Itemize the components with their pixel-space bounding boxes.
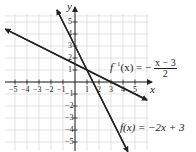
y-tick-label: 1 [68, 66, 72, 74]
y-tick-label: 2 [68, 54, 72, 62]
x-tick-label: −2 [45, 86, 54, 94]
finverse-equation-label: f−1(x) = − x − 3 2 [110, 58, 177, 79]
y-tick-label: 5 [68, 18, 72, 26]
x-tick-label: 4 [121, 86, 125, 94]
x-tick-label: −4 [21, 86, 30, 94]
x-tick-label: 2 [97, 86, 101, 94]
finv-denominator: 2 [154, 69, 177, 79]
finv-fraction: x − 3 2 [154, 58, 177, 79]
y-tick-label: −4 [65, 126, 74, 134]
finv-sup: −1 [113, 60, 120, 68]
x-tick-label: 3 [109, 86, 113, 94]
y-tick-label: −3 [65, 114, 74, 122]
y-axis-label: y [67, 1, 72, 12]
y-tick-label: −2 [65, 102, 74, 110]
x-tick-label: −3 [33, 86, 42, 94]
y-tick-label: 4 [68, 30, 72, 38]
y-tick-label: −5 [65, 138, 74, 146]
y-tick-label: 3 [68, 42, 72, 50]
x-tick-label: 5 [133, 86, 137, 94]
f-equation-label: f(x) = −2x + 3 [120, 122, 184, 133]
finv-arg: (x) = − [121, 61, 152, 73]
x-tick-label: 1 [85, 86, 89, 94]
y-tick-label: −1 [65, 90, 74, 98]
x-axis-label: x [150, 84, 155, 95]
x-tick-label: −5 [9, 86, 18, 94]
